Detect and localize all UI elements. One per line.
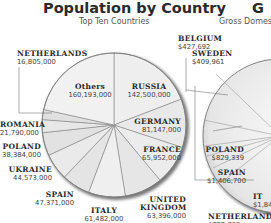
- label-netherlands: NETHERLANDS 16,805,000: [17, 50, 87, 66]
- label-romania: ROMANIA 21,790,000: [0, 121, 38, 137]
- label2-italy: IT $1,844: [253, 193, 271, 209]
- value-others: 160,193,000: [62, 91, 118, 99]
- label2-sweden: SWEDEN $409,961: [192, 50, 232, 66]
- value2-netherlands: $722,700: [208, 221, 271, 223]
- value2-poland: $829,339: [200, 154, 244, 162]
- label-united-kingdom: UNITED KINGDOM 63,396,000: [140, 196, 186, 220]
- label-others: Others 160,193,000: [62, 83, 118, 99]
- value-poland: 38,384,000: [0, 151, 41, 159]
- label-italy: ITALY 61,482,000: [82, 207, 126, 223]
- value-russia: 142,500,000: [121, 91, 177, 99]
- value2-sweden: $409,961: [192, 58, 232, 66]
- chart2-title: G: [252, 0, 264, 16]
- value-france: 65,952,000: [130, 154, 181, 162]
- label2-poland: POLAND $829,339: [200, 146, 244, 162]
- population-pie: [0, 0, 271, 223]
- value-united-kingdom: 63,396,000: [140, 212, 186, 220]
- value-italy: 61,482,000: [82, 215, 126, 223]
- value-germany: 81,147,000: [130, 126, 181, 134]
- chart-subtitle: Top Ten Countries: [79, 17, 149, 26]
- label-spain: SPAIN 47,371,000: [30, 191, 74, 207]
- value-spain: 47,371,000: [30, 199, 74, 207]
- value2-spain: $1,406,700: [200, 177, 246, 185]
- value-netherlands: 16,805,000: [17, 58, 87, 66]
- label-poland: POLAND 38,384,000: [0, 143, 41, 159]
- label-france: FRANCE 65,952,000: [130, 146, 181, 162]
- label2-spain: SPAIN $1,406,700: [200, 169, 246, 185]
- value-romania: 21,790,000: [0, 129, 38, 137]
- label-germany: GERMANY 81,147,000: [130, 118, 181, 134]
- label2-netherlands: NETHERLANDS $722,700: [208, 213, 271, 223]
- value-ukraine: 44,573,000: [4, 174, 52, 182]
- label-russia: RUSSIA 142,500,000: [121, 83, 177, 99]
- chart2-subtitle: Gross Domest: [219, 17, 271, 26]
- chart-title: Population by Country: [43, 0, 226, 16]
- value2-italy: $1,844: [253, 201, 271, 209]
- label-ukraine: UKRAINE 44,573,000: [4, 166, 52, 182]
